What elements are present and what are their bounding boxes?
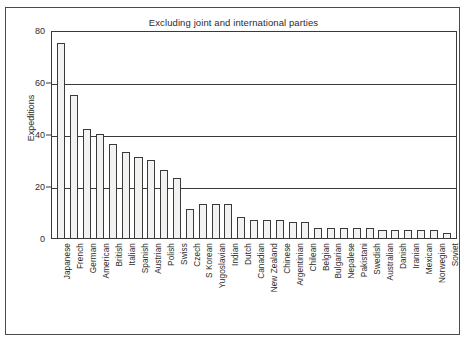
bar[interactable] [173,178,181,238]
bar[interactable] [366,228,374,238]
bar[interactable] [301,222,309,238]
x-label-slot: Belgian [312,241,325,333]
y-tick-mark-60 [46,83,51,84]
bar-slot [81,32,94,238]
x-label-slot: Danish [390,241,403,333]
bar[interactable] [212,204,220,238]
plot-area [51,31,457,239]
x-label-slot: American [93,241,106,333]
bar-slot [440,32,453,238]
bar-slot [312,32,325,238]
bar[interactable] [147,160,155,238]
bar[interactable] [417,230,425,238]
bar-slot [235,32,248,238]
bar-slot [325,32,338,238]
bar[interactable] [160,170,168,238]
chart-frame: Excluding joint and international partie… [5,7,460,335]
bar-series [52,32,456,238]
x-label-slot: Yugoslavian [209,241,222,333]
bar-slot [94,32,107,238]
x-label-slot: Spanish [131,241,144,333]
bar-slot [389,32,402,238]
y-tick-label-80: 80 [11,26,45,36]
bar[interactable] [430,230,438,238]
x-label-slot: Swiss [170,241,183,333]
bar-slot [183,32,196,238]
y-tick-mark-40 [46,135,51,136]
bar[interactable] [391,230,399,238]
x-label-slot: Nepalese [338,241,351,333]
x-label-slot: Polish [157,241,170,333]
y-tick-label-60: 60 [11,78,45,88]
x-label-slot: Dutch [235,241,248,333]
bar-slot [376,32,389,238]
bar[interactable] [57,43,65,238]
x-axis-labels: JapaneseFrenchGermanAmericanBritishItali… [51,241,457,333]
x-label-slot: Norwegian [428,241,441,333]
bar-slot [196,32,209,238]
x-label-slot: French [67,241,80,333]
bar[interactable] [378,230,386,238]
bar-slot [338,32,351,238]
bar-slot [68,32,81,238]
bar[interactable] [237,217,245,238]
bar[interactable] [276,220,284,238]
bar-slot [286,32,299,238]
bar[interactable] [96,134,104,238]
bar[interactable] [404,230,412,238]
bar[interactable] [224,204,232,238]
x-tick-label: Soviet [451,243,460,266]
bar[interactable] [83,129,91,238]
x-label-slot: Iranian [402,241,415,333]
x-label-slot: Pakistani [351,241,364,333]
x-label-slot: S Korean [196,241,209,333]
x-label-slot: Indian [222,241,235,333]
bar-slot [145,32,158,238]
x-label-slot: Swedish [364,241,377,333]
x-label-slot: Chilean [299,241,312,333]
bar[interactable] [327,228,335,238]
bar-slot [119,32,132,238]
bar-slot [363,32,376,238]
y-tick-mark-20 [46,187,51,188]
bar-slot [55,32,68,238]
x-label-slot: Chinese [273,241,286,333]
bar[interactable] [134,157,142,238]
bar[interactable] [340,228,348,238]
x-label-slot: Italian [119,241,132,333]
bar-slot [350,32,363,238]
x-label-slot: Austrian [144,241,157,333]
bar[interactable] [186,209,194,238]
bar-slot [171,32,184,238]
bar[interactable] [122,152,130,238]
y-tick-label-40: 40 [11,130,45,140]
bar[interactable] [314,228,322,238]
x-label-slot: Mexican [415,241,428,333]
bar[interactable] [70,95,78,238]
x-label-slot: German [80,241,93,333]
bar-slot [299,32,312,238]
bar-slot [261,32,274,238]
bar-slot [427,32,440,238]
x-label-slot: Japanese [54,241,67,333]
bar[interactable] [353,228,361,238]
x-label-slot: Canadian [248,241,261,333]
bar-slot [415,32,428,238]
bar-slot [222,32,235,238]
x-label-slot: New Zealand [261,241,274,333]
y-tick-label-20: 20 [11,182,45,192]
bar[interactable] [250,220,258,238]
bar-slot [248,32,261,238]
bar[interactable] [109,144,117,238]
bar[interactable] [443,233,451,238]
y-tick-label-0: 0 [11,234,45,244]
x-label-slot: Bulgarian [325,241,338,333]
bar[interactable] [199,204,207,238]
x-label-slot: Soviet [441,241,454,333]
x-label-slot: Australian [377,241,390,333]
bar-slot [402,32,415,238]
bar[interactable] [263,220,271,238]
bar[interactable] [289,222,297,238]
bar-slot [209,32,222,238]
bar-slot [158,32,171,238]
